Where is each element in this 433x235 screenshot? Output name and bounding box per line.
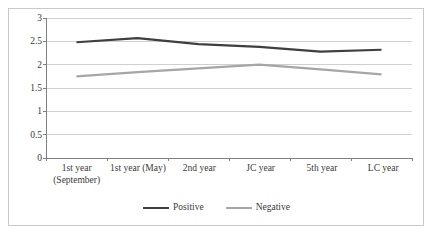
x-tick-label-5: 5th year — [291, 162, 352, 202]
y-tick-label: 0 — [14, 153, 42, 163]
chart-legend: PositiveNegative — [0, 202, 433, 213]
legend-item-negative[interactable]: Negative — [226, 202, 290, 213]
x-tick-label-6: LC year — [353, 162, 414, 202]
x-tick-label-2: 1st year (May) — [107, 162, 168, 202]
y-tick-label: 1.5 — [14, 83, 42, 93]
y-tick-label: 2.5 — [14, 36, 42, 46]
series-line-positive — [77, 38, 382, 52]
legend-label-positive: Positive — [173, 202, 204, 213]
legend-swatch-positive — [143, 207, 169, 209]
y-tick-label: 3 — [14, 13, 42, 23]
y-axis-tick-labels: 00.511.522.53 — [14, 0, 42, 235]
chart-screenshot: 00.511.522.53 1st year (September)1st ye… — [0, 0, 433, 235]
y-tick-label: 0.5 — [14, 130, 42, 140]
legend-swatch-negative — [226, 207, 252, 209]
gridlines — [46, 18, 412, 158]
x-tick-label-4: JC year — [230, 162, 291, 202]
data-series-layer — [77, 38, 382, 76]
y-tick-label: 2 — [14, 60, 42, 70]
y-tick-label: 1 — [14, 106, 42, 116]
x-axis-tick-labels: 1st year (September)1st year (May)2nd ye… — [46, 162, 414, 202]
x-tick-label-1: 1st year (September) — [46, 162, 107, 202]
series-line-negative — [77, 65, 382, 77]
legend-label-negative: Negative — [256, 202, 290, 213]
x-tick-label-3: 2nd year — [169, 162, 230, 202]
legend-item-positive[interactable]: Positive — [143, 202, 204, 213]
axis-tick-marks — [43, 18, 412, 161]
